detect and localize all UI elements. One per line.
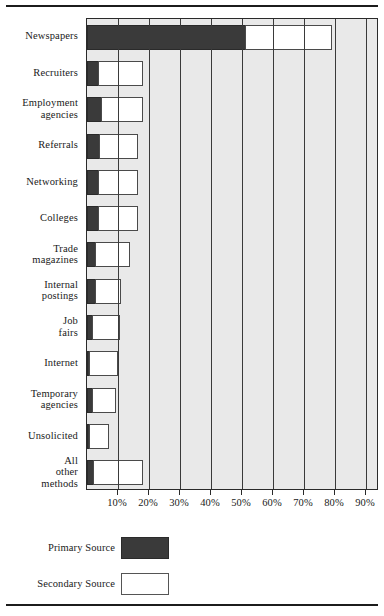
bar-row: [87, 164, 377, 200]
bar-segment-primary: [87, 134, 99, 159]
bar-row: [87, 273, 377, 309]
bar-segment-secondary: [89, 424, 109, 449]
category-label-line: fairs: [0, 327, 78, 339]
stacked-bar: [87, 134, 138, 159]
x-tick-label: 10%: [102, 496, 132, 510]
bar-segment-primary: [87, 206, 98, 231]
gridline-40: [211, 19, 212, 489]
x-tick: [241, 490, 242, 495]
x-axis-tick-labels: 10%20%30%40%50%60%70%80%90%: [86, 496, 378, 512]
stacked-bar: [87, 315, 120, 340]
stacked-bar: [87, 351, 118, 376]
stacked-bar: [87, 61, 143, 86]
category-label: Referrals: [0, 139, 78, 151]
bar-segment-primary: [87, 242, 95, 267]
bar-row: [87, 309, 377, 345]
x-tick-label: 90%: [350, 496, 380, 510]
category-label-line: methods: [0, 478, 78, 490]
bar-row: [87, 55, 377, 91]
stacked-bar: [87, 388, 116, 413]
category-label: Temporaryagencies: [0, 388, 78, 411]
category-label: Internalpostings: [0, 279, 78, 302]
stacked-bar: [87, 206, 138, 231]
category-label: Trademagazines: [0, 243, 78, 266]
stacked-bar: [87, 279, 121, 304]
bar-segment-primary: [87, 25, 245, 50]
bar-row: [87, 455, 377, 491]
gridline-20: [149, 19, 150, 489]
chart-legend: Primary SourceSecondary Source: [0, 536, 384, 598]
x-tick-label: 20%: [133, 496, 163, 510]
bar-segment-secondary: [92, 315, 120, 340]
category-label: Jobfairs: [0, 315, 78, 338]
category-label-line: postings: [0, 290, 78, 302]
category-label: Networking: [0, 176, 78, 188]
bar-row: [87, 382, 377, 418]
category-label-line: Job: [0, 315, 78, 327]
bar-segment-primary: [87, 279, 95, 304]
x-tick-label: 50%: [226, 496, 256, 510]
gridline-60: [273, 19, 274, 489]
legend-label: Primary Source: [30, 542, 121, 554]
category-label: Internet: [0, 357, 78, 369]
bar-segment-primary: [87, 170, 98, 195]
gridline-50: [242, 19, 243, 489]
category-label-line: magazines: [0, 254, 78, 266]
bar-segment-primary: [87, 61, 98, 86]
category-axis-labels: NewspapersRecruitersEmploymentagenciesRe…: [0, 18, 82, 490]
stacked-bar: [87, 25, 332, 50]
bar-segment-secondary: [245, 25, 332, 50]
bar-row: [87, 201, 377, 237]
bar-row: [87, 92, 377, 128]
bar-row: [87, 346, 377, 382]
gridline-80: [335, 19, 336, 489]
secondary-swatch: [121, 573, 169, 595]
x-tick: [210, 490, 211, 495]
stacked-bar: [87, 242, 130, 267]
bar-segment-secondary: [101, 97, 143, 122]
x-tick: [334, 490, 335, 495]
bar-segment-secondary: [92, 388, 117, 413]
bar-rows-container: [87, 19, 377, 489]
category-label: Employmentagencies: [0, 97, 78, 120]
gridline-30: [180, 19, 181, 489]
bottom-divider-rule: [6, 604, 378, 606]
x-tick: [179, 490, 180, 495]
bar-row: [87, 237, 377, 273]
bar-segment-secondary: [89, 351, 118, 376]
chart-figure: NewspapersRecruitersEmploymentagenciesRe…: [0, 0, 384, 616]
x-tick-label: 30%: [164, 496, 194, 510]
top-divider-rule: [6, 5, 378, 7]
category-label-line: other: [0, 466, 78, 478]
x-axis-ticks: [86, 490, 378, 495]
gridline-10: [118, 19, 119, 489]
x-tick-label: 60%: [257, 496, 287, 510]
category-label-line: agencies: [0, 399, 78, 411]
stacked-bar: [87, 170, 138, 195]
legend-label: Secondary Source: [30, 578, 121, 590]
x-tick: [365, 490, 366, 495]
category-label: Recruiters: [0, 67, 78, 79]
category-label-line: Trade: [0, 243, 78, 255]
category-label-line: All: [0, 455, 78, 467]
category-label-line: Employment: [0, 97, 78, 109]
bar-row: [87, 418, 377, 454]
legend-entry: Primary Source: [30, 536, 169, 560]
category-label-line: agencies: [0, 109, 78, 121]
bar-segment-secondary: [95, 242, 131, 267]
x-tick: [303, 490, 304, 495]
category-label-line: Internal: [0, 279, 78, 291]
x-tick: [117, 490, 118, 495]
x-tick: [148, 490, 149, 495]
gridline-90: [366, 19, 367, 489]
stacked-bar: [87, 460, 143, 485]
x-tick-label: 40%: [195, 496, 225, 510]
category-label-line: Temporary: [0, 388, 78, 400]
category-label: Allothermethods: [0, 455, 78, 490]
plot-area: [86, 18, 378, 490]
gridline-70: [304, 19, 305, 489]
stacked-bar: [87, 97, 143, 122]
stacked-bar: [87, 424, 109, 449]
primary-swatch: [121, 537, 169, 559]
category-label: Unsolicited: [0, 430, 78, 442]
